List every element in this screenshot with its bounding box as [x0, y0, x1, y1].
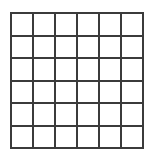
diagram-canvas — [0, 0, 152, 157]
grid-cell-r2-c5[interactable] — [100, 37, 120, 58]
grid-cell-label — [122, 82, 142, 103]
grid-cell-label — [122, 104, 142, 125]
grid-cell-r2-c4[interactable] — [78, 37, 98, 58]
grid-cell-r5-c5[interactable] — [100, 104, 120, 125]
grid-cell-r4-c5[interactable] — [100, 82, 120, 103]
grid-cell-r4-c2[interactable] — [34, 82, 54, 103]
grid-cell-label — [100, 14, 120, 35]
grid-cell-r4-c3[interactable] — [56, 82, 76, 103]
grid-cell-label — [78, 14, 98, 35]
grid-cell-label — [12, 37, 32, 58]
grid-cell-r5-c6[interactable] — [122, 104, 142, 125]
grid-cell-r5-c1[interactable] — [12, 104, 32, 125]
grid-cell-r6-c3[interactable] — [56, 127, 76, 148]
grid-cell-r6-c2[interactable] — [34, 127, 54, 148]
grid-cell-r3-c6[interactable] — [122, 59, 142, 80]
grid-cell-label — [100, 59, 120, 80]
grid-cell-r4-c1[interactable] — [12, 82, 32, 103]
grid-cell-label — [56, 14, 76, 35]
grid-cell-label — [56, 82, 76, 103]
grid-cell-r1-c4[interactable] — [78, 14, 98, 35]
grid-cell-r1-c2[interactable] — [34, 14, 54, 35]
grid-cell-label — [100, 82, 120, 103]
grid-cell-label — [100, 37, 120, 58]
grid-cell-label — [12, 82, 32, 103]
grid-cell-r1-c6[interactable] — [122, 14, 142, 35]
grid-cell-r5-c4[interactable] — [78, 104, 98, 125]
grid-cell-label — [12, 14, 32, 35]
grid-cell-label — [122, 37, 142, 58]
grid-cell-r2-c6[interactable] — [122, 37, 142, 58]
grid-cell-r2-c3[interactable] — [56, 37, 76, 58]
square-grid[interactable] — [10, 12, 144, 149]
grid-cell-r4-c4[interactable] — [78, 82, 98, 103]
grid-cell-r6-c6[interactable] — [122, 127, 142, 148]
grid-cell-label — [56, 127, 76, 148]
grid-cell-label — [78, 127, 98, 148]
grid-cell-label — [122, 127, 142, 148]
grid-cell-r4-c6[interactable] — [122, 82, 142, 103]
grid-cell-label — [78, 82, 98, 103]
grid-cell-r6-c4[interactable] — [78, 127, 98, 148]
grid-cell-r1-c1[interactable] — [12, 14, 32, 35]
grid-cell-label — [34, 104, 54, 125]
grid-cell-r3-c1[interactable] — [12, 59, 32, 80]
grid-cell-label — [34, 14, 54, 35]
grid-cell-label — [34, 59, 54, 80]
grid-cell-r3-c5[interactable] — [100, 59, 120, 80]
grid-cell-r5-c2[interactable] — [34, 104, 54, 125]
grid-cell-label — [12, 59, 32, 80]
grid-cell-r3-c2[interactable] — [34, 59, 54, 80]
grid-cell-label — [56, 59, 76, 80]
grid-cell-r5-c3[interactable] — [56, 104, 76, 125]
grid-cell-r1-c5[interactable] — [100, 14, 120, 35]
grid-cell-r3-c3[interactable] — [56, 59, 76, 80]
grid-cell-label — [56, 104, 76, 125]
grid-cell-label — [34, 82, 54, 103]
grid-cell-label — [122, 59, 142, 80]
grid-cell-r2-c1[interactable] — [12, 37, 32, 58]
grid-cell-label — [12, 127, 32, 148]
grid-cell-label — [34, 37, 54, 58]
grid-cell-r6-c1[interactable] — [12, 127, 32, 148]
grid-cell-r6-c5[interactable] — [100, 127, 120, 148]
grid-cell-label — [78, 59, 98, 80]
grid-cell-label — [78, 37, 98, 58]
grid-cell-r2-c2[interactable] — [34, 37, 54, 58]
grid-cell-label — [12, 104, 32, 125]
grid-cell-r3-c4[interactable] — [78, 59, 98, 80]
grid-cell-label — [122, 14, 142, 35]
grid-cell-label — [78, 104, 98, 125]
grid-cell-label — [100, 127, 120, 148]
grid-cell-label — [56, 37, 76, 58]
grid-cell-r1-c3[interactable] — [56, 14, 76, 35]
grid-cell-label — [100, 104, 120, 125]
grid-cell-label — [34, 127, 54, 148]
